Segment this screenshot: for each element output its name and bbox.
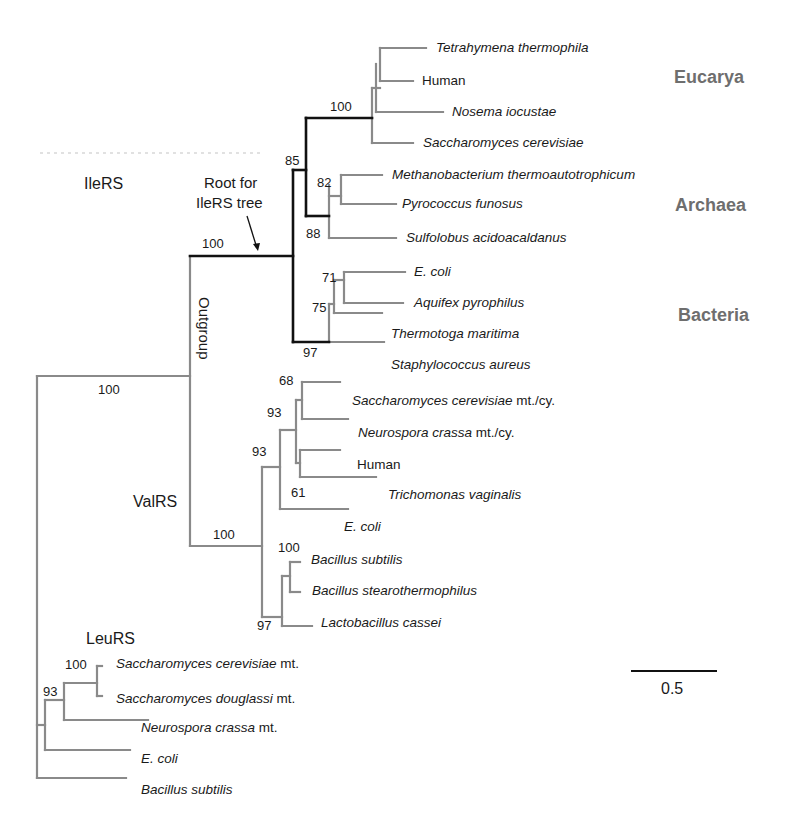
taxon-label: Trichomonas vaginalis <box>388 488 521 502</box>
taxon-label: Bacillus subtilis <box>311 553 403 567</box>
taxon-label: Saccharomyces cerevisiae mt./cy. <box>352 394 555 408</box>
bootstrap-value: 82 <box>317 176 331 189</box>
taxon-label: Human <box>357 458 401 472</box>
domain-label-bacteria: Bacteria <box>678 306 749 324</box>
taxon-label: Staphylococcus aureus <box>391 358 531 372</box>
bootstrap-value: 100 <box>202 237 224 250</box>
bootstrap-value: 93 <box>252 445 266 458</box>
bootstrap-value: 97 <box>257 619 271 632</box>
bootstrap-value: 100 <box>278 541 300 554</box>
taxon-label: Bacillus stearothermophilus <box>312 584 477 598</box>
outgroup-label: Outgroup <box>197 297 212 360</box>
taxon-label: Methanobacterium thermoautotrophicum <box>392 168 635 182</box>
taxon-label: Neurospora crassa mt. <box>141 721 278 735</box>
phylogenetic-tree-figure: IleRS Root for IleRS tree Outgroup ValRS… <box>0 0 802 813</box>
taxon-label: Saccharomyces douglassi mt. <box>116 692 295 706</box>
group-label-valrs: ValRS <box>133 494 177 510</box>
taxon-label: E. coli <box>414 265 451 279</box>
root-arrow-icon <box>247 216 260 251</box>
bootstrap-value: 97 <box>303 346 317 359</box>
scale-bar-label: 0.5 <box>661 681 683 697</box>
bootstrap-value: 75 <box>312 301 326 314</box>
taxon-label: Saccharomyces cerevisiae mt. <box>116 657 299 671</box>
bootstrap-value: 93 <box>267 406 281 419</box>
bootstrap-value: 68 <box>279 374 293 387</box>
taxon-label: Sulfolobus acidoacaldanus <box>406 231 567 245</box>
taxon-label: Tetrahymena thermophila <box>436 41 589 55</box>
taxon-label: Lactobacillus cassei <box>321 616 441 630</box>
taxon-label: Bacillus subtilis <box>141 783 233 797</box>
bootstrap-value: 71 <box>322 271 336 284</box>
taxon-label: Saccharomyces cerevisiae <box>423 136 584 150</box>
taxon-label: Neurospora crassa mt./cy. <box>358 426 515 440</box>
taxon-label: Human <box>422 74 466 88</box>
bootstrap-value: 100 <box>213 528 235 541</box>
bootstrap-value: 61 <box>291 486 305 499</box>
bootstrap-value: 88 <box>306 227 320 240</box>
taxon-label: Aquifex pyrophilus <box>414 296 524 310</box>
bootstrap-value: 100 <box>98 383 120 396</box>
taxon-label: Pyrococcus funosus <box>402 197 523 211</box>
taxon-label: Thermotoga maritima <box>391 327 519 341</box>
bootstrap-value: 93 <box>43 685 57 698</box>
domain-label-eucarya: Eucarya <box>674 68 744 86</box>
taxon-label: E. coli <box>344 520 381 534</box>
domain-label-archaea: Archaea <box>675 196 746 214</box>
root-note-line2: IleRS tree <box>196 195 263 210</box>
taxon-label: Nosema iocustae <box>452 105 556 119</box>
group-label-leurs: LeuRS <box>86 631 135 647</box>
bootstrap-value: 100 <box>330 100 352 113</box>
bootstrap-value: 100 <box>65 658 87 671</box>
root-note-line1: Root for <box>204 175 257 190</box>
bootstrap-value: 85 <box>285 154 299 167</box>
group-label-ilers: IleRS <box>84 176 123 192</box>
taxon-label: E. coli <box>141 752 178 766</box>
